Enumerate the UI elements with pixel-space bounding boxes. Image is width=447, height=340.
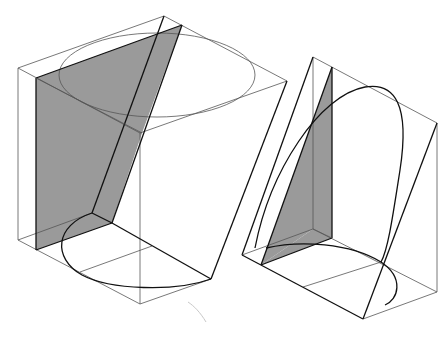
smudge-mark (188, 302, 206, 322)
left-box-bottom-face (18, 240, 211, 304)
two-box-section-diagram (0, 0, 447, 340)
right-box-figure (242, 57, 437, 319)
right-box-bottom-front (363, 292, 437, 319)
diagram-canvas (0, 0, 447, 340)
left-shaded-plane (36, 25, 182, 250)
left-base-edge (112, 223, 211, 279)
left-box-figure (18, 16, 287, 304)
left-bottom-diameter (80, 246, 152, 272)
right-box-bottom-left (242, 255, 363, 319)
right-box-front-slant (363, 123, 437, 319)
right-bottom-diameter (303, 262, 381, 287)
